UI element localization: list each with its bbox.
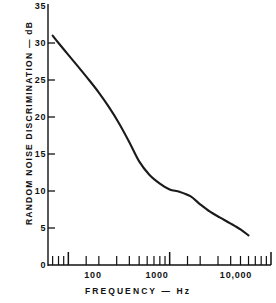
x-axis-ticks bbox=[53, 252, 271, 265]
chart-figure: RANDOM NOISE DISCRIMINATION — dB 35 30 2… bbox=[0, 0, 276, 303]
data-series-line bbox=[53, 36, 249, 236]
plot-area bbox=[0, 0, 276, 303]
y-axis-ticks bbox=[48, 43, 55, 228]
